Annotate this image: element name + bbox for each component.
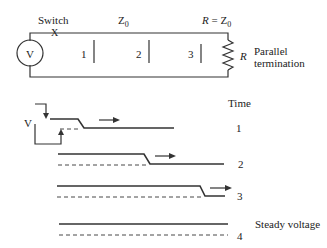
- waveform-3-index: 3: [237, 190, 243, 202]
- resistor-icon: [223, 40, 233, 70]
- waveform-2: [58, 154, 224, 165]
- waveform-4-index: 4: [237, 230, 243, 242]
- position-2-label: 2: [136, 48, 142, 60]
- circuit-wires: [30, 33, 233, 77]
- steady-voltage-label: Steady voltage: [255, 218, 320, 230]
- switch-mark: X: [51, 27, 58, 39]
- waveform-4: [59, 224, 228, 235]
- source-label: V: [26, 48, 34, 60]
- position-3-label: 3: [188, 48, 194, 60]
- switch-label: Switch: [38, 14, 69, 26]
- termination-label-line1: Parallel: [254, 45, 288, 57]
- diagram-canvas: [0, 0, 327, 248]
- amplitude-label: V: [24, 117, 32, 129]
- waveform-2-index: 2: [238, 158, 244, 170]
- waveform-3: [57, 186, 226, 197]
- termination-label-line2: termination: [254, 57, 305, 69]
- termination-equation: R = Z0: [202, 14, 231, 31]
- waveform-1: [35, 104, 174, 144]
- time-label: Time: [228, 97, 251, 109]
- line-impedance-label: Z0: [118, 14, 129, 31]
- resistor-label: R: [240, 50, 247, 62]
- waveform-1-index: 1: [236, 122, 242, 134]
- position-1-label: 1: [81, 48, 87, 60]
